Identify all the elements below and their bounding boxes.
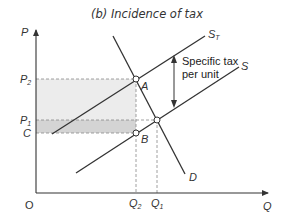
- tax-annotation-line1: Specific tax: [182, 55, 239, 67]
- y-axis-label: P: [21, 26, 29, 38]
- x-axis-label: Q: [263, 200, 272, 212]
- origin-label: O: [25, 199, 34, 211]
- producer-tax-burden-area: [36, 120, 136, 133]
- equilibrium-marker: [154, 117, 160, 123]
- q2-label: Q2: [129, 197, 142, 210]
- c-label: C: [23, 127, 31, 139]
- p1-label: P1: [20, 114, 31, 127]
- supply-label: S: [241, 60, 249, 72]
- tax-arrow-up-icon: [171, 55, 177, 63]
- tax-incidence-diagram: (b) Incidence of tax P Q O P2 P1 C Q2 Q1…: [0, 0, 285, 223]
- point-b-marker: [133, 130, 139, 136]
- point-a-label: A: [140, 80, 148, 92]
- tax-arrow-down-icon: [171, 100, 177, 108]
- p2-label: P2: [20, 73, 31, 86]
- consumer-tax-burden-area: [36, 79, 136, 120]
- point-b-label: B: [141, 133, 148, 145]
- demand-label: D: [189, 171, 197, 183]
- tax-annotation-line2: per unit: [182, 68, 219, 80]
- point-a-marker: [133, 76, 139, 82]
- supply-taxed-label: ST: [208, 28, 220, 41]
- diagram-title: (b) Incidence of tax: [91, 7, 203, 21]
- q1-label: Q1: [151, 197, 164, 210]
